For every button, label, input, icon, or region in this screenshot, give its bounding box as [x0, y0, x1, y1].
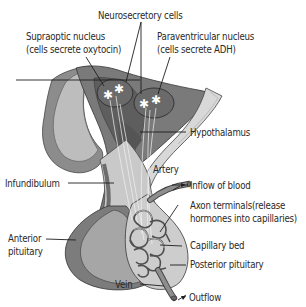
label-supraoptic-note: (cells secrete oxytocin): [26, 44, 121, 55]
label-posterior-pituitary: Posterior pituitary: [190, 259, 264, 270]
paraventricular-nucleus: ✱ ✱: [134, 88, 174, 118]
label-outflow: Outflow: [189, 292, 221, 303]
label-axon-terminals-note: hormones into capillaries): [190, 213, 297, 224]
label-infundibulum: Infundibulum: [5, 178, 60, 189]
label-vein: Vein: [115, 279, 133, 290]
label-inflow-of-blood: Inflow of blood: [190, 180, 251, 191]
artery-vessel: [150, 181, 191, 200]
neuron-star-icon: ✱: [114, 82, 124, 96]
label-supraoptic-nucleus: Supraoptic nucleus: [26, 31, 106, 42]
label-neurosecretory-cells: Neurosecretory cells: [98, 10, 183, 21]
label-capillary-bed: Capillary bed: [190, 240, 244, 251]
pituitary-diagram: ✱ ✱ ✱ ✱: [0, 0, 306, 307]
neuron-star-icon: ✱: [151, 93, 161, 107]
label-hypothalamus: Hypothalamus: [190, 127, 251, 138]
neuron-star-icon: ✱: [139, 97, 149, 111]
diagram-canvas: ✱ ✱ ✱ ✱: [0, 0, 306, 307]
label-axon-terminals: Axon terminals(release: [190, 200, 285, 211]
label-anterior: Anterior: [8, 233, 42, 244]
label-anterior-pituitary: pituitary: [8, 246, 43, 257]
label-paraventricular-note: (cells secrete ADH): [157, 44, 236, 55]
label-artery: Artery: [153, 164, 179, 175]
label-paraventricular-nucleus: Paraventricular nucleus: [157, 31, 255, 42]
neuron-star-icon: ✱: [103, 88, 113, 102]
